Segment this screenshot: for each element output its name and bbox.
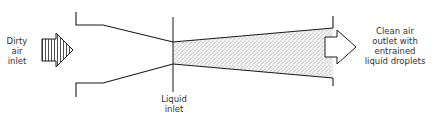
dirty-air-inlet-arrow-icon bbox=[42, 33, 73, 67]
inlet-flange-bottom bbox=[76, 64, 173, 97]
liquid-inlet-label: Liquid inlet bbox=[156, 94, 192, 114]
dirty-air-inlet-label: Dirty air inlet bbox=[0, 36, 34, 66]
inlet-flange-top bbox=[76, 12, 173, 42]
clean-air-outlet-label: Clean air outlet with entrained liquid d… bbox=[357, 26, 433, 66]
